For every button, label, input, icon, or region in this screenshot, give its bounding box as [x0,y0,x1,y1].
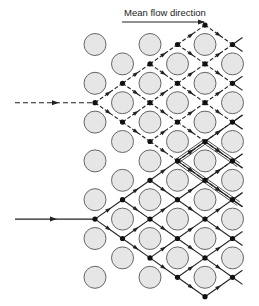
obstacle-circle [222,169,244,191]
obstacle-circle [222,131,244,153]
obstacle-circle [167,208,189,230]
obstacle-circle [167,131,189,153]
obstacle-circle [139,34,161,56]
inflow-arrow-icon [50,217,57,222]
flow-node [202,178,207,183]
obstacle-circle [167,53,189,75]
obstacle-circle [222,247,244,269]
obstacle-circle [167,169,189,191]
flow-node [147,100,152,105]
flow-node [202,139,207,144]
flow-node [230,236,235,241]
flow-node [120,81,125,86]
flow-node [202,61,207,66]
obstacle-circle [84,34,106,56]
obstacle-circle [112,208,134,230]
flow-node [175,42,180,47]
flow-node [175,236,180,241]
flow-node [147,61,152,66]
flow-node [175,158,180,163]
obstacle-circle [112,247,134,269]
flow-node [147,255,152,260]
flow-node [120,236,125,241]
flow-node [147,217,152,222]
obstacles [84,34,244,289]
obstacle-circle [139,266,161,288]
obstacle-circle [194,189,216,211]
obstacle-circle [84,228,106,250]
flow-node [175,81,180,86]
mean-flow-direction-label: Mean flow direction [122,7,206,25]
obstacle-circle [222,92,244,114]
flow-node [92,217,97,222]
flow-diagram: Mean flow direction [0,0,259,306]
flow-node [230,197,235,202]
obstacle-circle [112,53,134,75]
flow-node [202,100,207,105]
flow-node [230,120,235,125]
obstacle-circle [222,208,244,230]
flow-node [120,197,125,202]
obstacle-circle [167,247,189,269]
obstacle-circle [194,111,216,133]
obstacle-circle [194,150,216,172]
flow-node [92,100,97,105]
flow-node [202,255,207,260]
obstacle-circle [139,150,161,172]
obstacle-circle [139,111,161,133]
obstacle-circle [84,266,106,288]
obstacle-circle [194,266,216,288]
flow-node [202,217,207,222]
obstacle-circle [139,189,161,211]
obstacle-circle [112,92,134,114]
obstacle-circle [167,92,189,114]
flow-node [230,81,235,86]
obstacle-circle [84,72,106,94]
obstacle-circle [112,131,134,153]
flow-node [175,120,180,125]
obstacle-circle [84,150,106,172]
flow-node [230,275,235,280]
obstacle-circle [194,72,216,94]
obstacle-circle [222,53,244,75]
flow-node [175,275,180,280]
title-text: Mean flow direction [124,7,206,18]
flow-node [147,139,152,144]
obstacle-circle [139,72,161,94]
flow-node [175,197,180,202]
flow-node [202,294,207,299]
obstacle-circle [194,228,216,250]
flow-node [120,120,125,125]
obstacle-circle [84,111,106,133]
obstacle-circle [139,228,161,250]
inflow-arrow-icon [52,100,59,105]
flow-node [147,178,152,183]
flow-node [230,158,235,163]
obstacle-circle [194,34,216,56]
flow-node [202,23,207,28]
obstacle-circle [112,169,134,191]
obstacle-circle [84,189,106,211]
flow-node [230,42,235,47]
